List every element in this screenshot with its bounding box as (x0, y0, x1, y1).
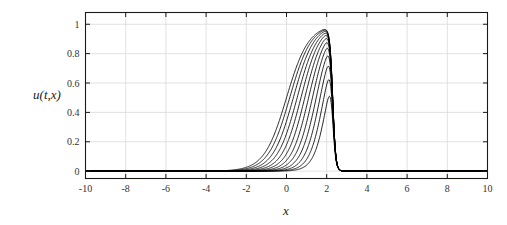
x-axis-label: x (282, 203, 289, 218)
x-tick-label: 4 (364, 183, 369, 194)
y-tick-label: 0.6 (67, 78, 80, 89)
x-tick-label: 2 (324, 183, 329, 194)
y-tick-label: 0.2 (67, 136, 80, 147)
x-tick-label: 0 (284, 183, 289, 194)
chart-canvas: -10-8-6-4-20246810 00.20.40.60.81 x u(t,… (0, 0, 507, 225)
x-tick-label: -8 (122, 183, 130, 194)
x-tick-label: 6 (405, 183, 410, 194)
figure-container: -10-8-6-4-20246810 00.20.40.60.81 x u(t,… (0, 0, 507, 225)
y-tick-label: 1 (75, 19, 80, 30)
y-tick-label: 0.8 (67, 48, 80, 59)
x-tick-label: -2 (242, 183, 250, 194)
y-axis-label: u(t,x) (33, 87, 61, 102)
x-tick-label: -6 (162, 183, 170, 194)
x-tick-label: -4 (202, 183, 210, 194)
x-tick-label: 10 (483, 183, 493, 194)
y-tick-label: 0 (75, 166, 80, 177)
x-tick-label: 8 (445, 183, 450, 194)
y-tick-label: 0.4 (67, 107, 80, 118)
x-tick-label: -10 (79, 183, 92, 194)
